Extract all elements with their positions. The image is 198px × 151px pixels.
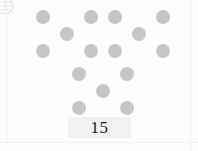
dot bbox=[156, 10, 170, 24]
answer-value: 15 bbox=[91, 119, 109, 136]
circle-outline-icon bbox=[0, 0, 15, 16]
dot bbox=[84, 10, 98, 24]
dot bbox=[84, 44, 98, 58]
dot bbox=[60, 27, 74, 41]
canvas-edge-right bbox=[190, 0, 191, 151]
canvas-edge-left bbox=[7, 0, 8, 142]
answer-field[interactable]: 15 bbox=[68, 117, 131, 138]
dot bbox=[108, 44, 122, 58]
dot-group-right bbox=[108, 10, 170, 58]
dot bbox=[108, 10, 122, 24]
dot bbox=[36, 44, 50, 58]
dot bbox=[72, 67, 86, 81]
dot-group-bottom bbox=[72, 67, 134, 115]
dot bbox=[96, 84, 110, 98]
dot bbox=[156, 44, 170, 58]
dot bbox=[36, 10, 50, 24]
counting-exercise-canvas: 15 bbox=[0, 0, 198, 151]
canvas-edge-bottom bbox=[0, 142, 198, 143]
dot bbox=[72, 101, 86, 115]
dot bbox=[120, 67, 134, 81]
dot bbox=[132, 27, 146, 41]
dot bbox=[120, 101, 134, 115]
dot-group-left bbox=[36, 10, 98, 58]
